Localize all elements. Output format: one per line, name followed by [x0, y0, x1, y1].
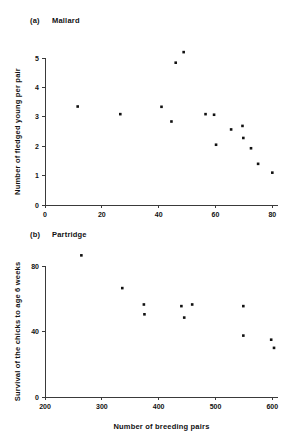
svg-text:0: 0: [43, 211, 47, 218]
axes-mallard: [45, 58, 278, 205]
plot-area-partridge: 20030040050060004080 Survival of the chi…: [0, 224, 301, 448]
data-point: [121, 287, 124, 290]
svg-text:4: 4: [35, 84, 39, 91]
data-point: [273, 347, 276, 350]
svg-text:Number of breeding pairs: Number of breeding pairs: [113, 422, 209, 431]
data-point: [191, 303, 194, 306]
data-point: [76, 105, 79, 108]
axis-titles-mallard: Number of fledged young per pair: [13, 68, 22, 195]
svg-text:Number of fledged young per pa: Number of fledged young per pair: [13, 68, 22, 195]
svg-text:300: 300: [96, 403, 108, 410]
svg-text:2: 2: [35, 143, 39, 150]
svg-text:0: 0: [35, 394, 39, 401]
data-point: [170, 120, 173, 123]
ticks-mallard: [42, 58, 272, 208]
ticks-partridge: [42, 266, 272, 400]
svg-text:600: 600: [266, 403, 278, 410]
data-point: [215, 143, 218, 146]
svg-text:60: 60: [212, 211, 220, 218]
svg-text:80: 80: [31, 263, 39, 270]
data-point: [160, 106, 163, 109]
data-points-partridge: [80, 254, 275, 349]
data-point: [180, 305, 183, 308]
panel-mallard: (a) Mallard 020406080012345 Number of fl…: [0, 0, 301, 224]
svg-text:3: 3: [35, 113, 39, 120]
svg-text:0: 0: [35, 202, 39, 209]
data-points-mallard: [76, 51, 273, 174]
data-point: [257, 163, 260, 166]
tick-labels-mallard: 020406080012345: [35, 55, 276, 218]
svg-text:500: 500: [210, 403, 222, 410]
data-point: [119, 113, 122, 116]
data-point: [241, 125, 244, 128]
scatter-figure: (a) Mallard 020406080012345 Number of fl…: [0, 0, 301, 448]
svg-text:5: 5: [35, 55, 39, 62]
tick-labels-partridge: 20030040050060004080: [31, 263, 278, 410]
data-point: [230, 128, 233, 131]
svg-text:40: 40: [31, 328, 39, 335]
svg-text:200: 200: [39, 403, 51, 410]
data-point: [242, 305, 245, 308]
data-point: [213, 113, 216, 116]
plot-area-mallard: 020406080012345 Number of fledged young …: [0, 0, 301, 224]
data-point: [242, 334, 245, 337]
data-point: [80, 254, 83, 257]
svg-text:400: 400: [153, 403, 165, 410]
svg-text:1: 1: [35, 172, 39, 179]
data-point: [250, 147, 253, 150]
data-point: [271, 171, 274, 174]
data-point: [242, 137, 245, 140]
panel-partridge: (b) Partridge 20030040050060004080 Survi…: [0, 224, 301, 448]
data-point: [270, 338, 273, 341]
data-point: [143, 303, 146, 306]
data-point: [204, 113, 207, 116]
data-point: [174, 61, 177, 64]
axes-partridge: [45, 266, 278, 397]
data-point: [143, 313, 146, 316]
svg-text:80: 80: [268, 211, 276, 218]
data-point: [182, 51, 185, 54]
svg-text:40: 40: [155, 211, 163, 218]
data-point: [183, 316, 186, 319]
svg-text:20: 20: [98, 211, 106, 218]
svg-text:Survival of the chicks to age: Survival of the chicks to age 6 weeks: [13, 262, 22, 402]
